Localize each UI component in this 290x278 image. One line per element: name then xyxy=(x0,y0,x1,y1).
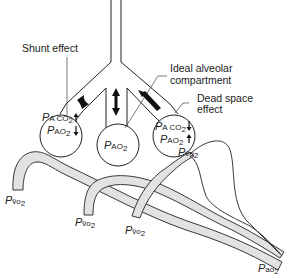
label-ideal-alveolar-2: compartment xyxy=(170,74,231,86)
label-shunt-effect: Shunt effect xyxy=(22,42,78,54)
vessel-shunt xyxy=(13,152,282,270)
va-q-diagram: Shunt effect Ideal alveolar compartment … xyxy=(0,0,290,278)
label-venous-4: Pv̄o2 xyxy=(178,146,199,160)
label-dead-space-2: effect xyxy=(197,103,223,115)
vessel-ideal xyxy=(84,176,284,258)
capillary-arc xyxy=(190,141,280,254)
label-ideal-alveolar-1: Ideal alveolar xyxy=(170,62,233,74)
label-venous-2: Pv̄o2 xyxy=(75,216,96,230)
label-venous-1: Pv̄o2 xyxy=(5,194,26,208)
label-venous-3: Pv̄o2 xyxy=(125,224,146,238)
blood-vessels xyxy=(13,152,284,270)
ventilation-arrow-ideal xyxy=(112,88,120,116)
svg-text:PA CO2: PA CO2 xyxy=(42,111,73,125)
